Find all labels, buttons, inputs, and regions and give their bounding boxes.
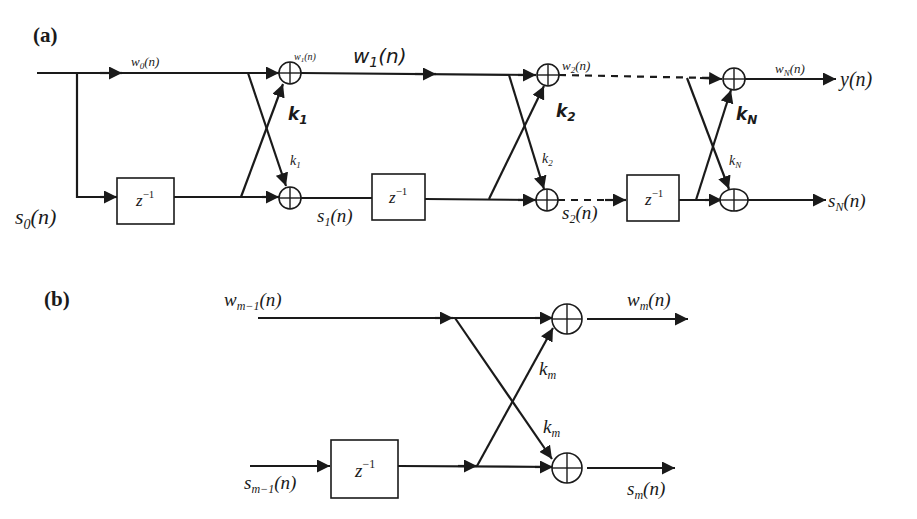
s-m-1-label: sm−1(n) [244,472,296,496]
kN-top-label: kN [736,104,757,127]
adderN-top-arrow-icon [700,78,722,79]
panel-b-label: (b) [44,287,70,311]
adder-m-bottom [552,453,582,483]
y-output-label: y(n) [838,68,873,91]
adder-m-top [552,304,582,334]
w1-big-label: w1(n) [353,44,407,70]
cross-k1-up [241,84,283,197]
panel-b: (b) wm−1(n) sm−1(n) z−1 km km wm(n) [44,287,688,502]
panel-a-label: (a) [33,23,58,47]
lattice-filter-diagram: (a) w0(n) s0(n) z−1 w1(n) k1 k1 [0,0,917,519]
k1-bottom-label: k1 [290,153,301,170]
cross-km-down [455,318,552,459]
cross-k2-down [509,75,544,189]
w-m-label: wm(n) [627,289,671,313]
wN-label: wN(n) [775,61,805,78]
k2-bottom-label: k2 [542,151,553,168]
w-m-1-label: wm−1(n) [224,289,282,313]
delay-block-1 [117,178,174,224]
w1-small-label: w1(n) [294,51,317,64]
cross-kN-down [687,78,729,189]
adder-2-bottom [536,189,558,211]
w-dashed-continuation [559,75,712,78]
adder-1-bottom [279,187,301,209]
adder-N-top [723,68,745,90]
sN-label: sN(n) [828,190,866,214]
kN-bottom-label: kN [729,153,742,170]
s0-label: s0(n) [15,204,56,232]
s-m-label: sm(n) [627,478,665,502]
km-bottom-label: km [543,416,560,440]
panel-a: (a) w0(n) s0(n) z−1 w1(n) k1 k1 [15,23,873,232]
adder-N-bottom [720,189,748,211]
adder-1-top [279,62,301,84]
delay-block-2 [372,174,425,220]
k1-top-label: k1 [288,104,308,127]
branch-line [77,73,108,197]
adder-2-top [537,64,559,86]
km-top-label: km [539,358,556,382]
w0-label: w0(n) [131,54,159,71]
s1-label: s1(n) [317,205,353,229]
s2-label: s2(n) [562,202,598,226]
w2-label: w2(n) [562,58,590,75]
k2-top-label: k2 [556,101,576,124]
